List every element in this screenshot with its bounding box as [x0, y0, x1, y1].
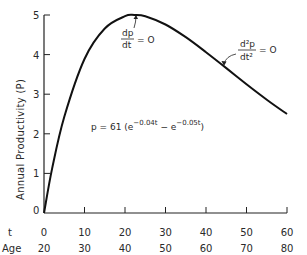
x-tick-label-t: 50	[240, 227, 253, 238]
x-tick-label-t: 10	[78, 227, 91, 238]
annotation-dp-dt-zero: dp dt = O	[121, 15, 155, 50]
x-tick-label-age: 80	[281, 243, 294, 254]
x-tick-label-age: 50	[159, 243, 172, 254]
y-tick-label: 4	[33, 50, 39, 61]
y-axis-label: Annual Productivity (P)	[15, 79, 26, 200]
x-tick-label-t: 60	[281, 227, 294, 238]
x-axis-label-t: t	[8, 227, 12, 238]
x-ticks: 020103020403050406050706080	[38, 207, 294, 254]
ann2-rhs: = O	[259, 45, 277, 55]
ann1-numerator: dp	[122, 28, 134, 38]
x-tick-label-age: 70	[240, 243, 253, 254]
x-tick-label-age: 30	[78, 243, 91, 254]
y-tick-label: 0	[33, 205, 39, 216]
x-tick-label-t: 40	[200, 227, 213, 238]
x-tick-label-t: 0	[41, 227, 47, 238]
ann1-rhs: = O	[137, 35, 155, 45]
x-tick-label-t: 20	[119, 227, 132, 238]
x-axis-label-age: Age	[2, 243, 21, 254]
y-tick-label: 1	[33, 168, 39, 179]
x-tick-label-age: 40	[119, 243, 132, 254]
x-tick-label-age: 60	[200, 243, 213, 254]
ann1-denominator: dt	[122, 40, 132, 50]
productivity-chart: 012345 020103020403050406050706080 t Age…	[0, 0, 307, 255]
x-tick-label-age: 20	[38, 243, 51, 254]
annotation-d2p-dt2-zero: d²p dt² = O	[222, 39, 277, 66]
ann2-denominator: dt²	[240, 52, 253, 62]
formula: p = 61 (e−0.04t − e−0.05t)	[91, 119, 204, 132]
y-tick-label: 3	[33, 89, 39, 100]
y-tick-label: 2	[33, 129, 39, 140]
y-ticks: 012345	[33, 10, 50, 216]
y-tick-label: 5	[33, 10, 39, 21]
ann2-numerator: d²p	[240, 39, 255, 49]
x-tick-label-t: 30	[159, 227, 172, 238]
